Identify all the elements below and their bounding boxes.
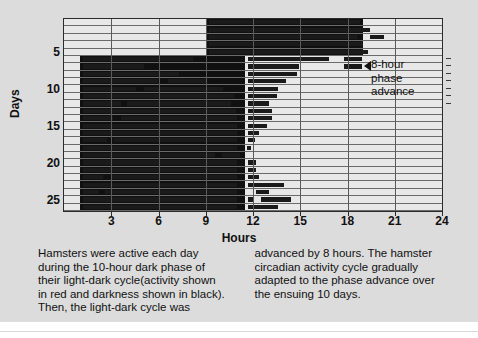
figure-caption: Hamsters were active each day during the…	[38, 247, 448, 315]
activity-bar	[248, 72, 297, 76]
activity-bar	[247, 146, 252, 150]
activity-bar	[209, 50, 368, 54]
activity-bar	[248, 64, 298, 68]
annotation-line-3: advance	[371, 85, 451, 99]
x-tick-mark	[442, 212, 443, 216]
activity-bar	[83, 183, 237, 187]
caption-line: during the 10-hour dark phase of	[38, 261, 236, 275]
phase-advance-annotation: 8-hour phase advance	[371, 58, 451, 99]
activity-bar	[248, 124, 267, 128]
activity-bar	[261, 197, 291, 201]
activity-bar	[209, 20, 360, 24]
x-tick-mark	[111, 212, 112, 216]
activity-bar	[248, 116, 272, 120]
activity-bar	[83, 205, 237, 209]
minor-tick	[446, 80, 451, 81]
y-tick-label: 15	[20, 119, 60, 133]
activity-bar	[83, 131, 237, 135]
x-gridline	[395, 19, 396, 211]
caption-line: adapted to the phase advance over	[254, 274, 448, 288]
y-tick-label: 5	[20, 45, 60, 59]
activity-bar	[83, 146, 237, 150]
y-tick-label: 25	[20, 193, 60, 207]
minor-tick	[446, 88, 451, 89]
activity-bar	[209, 35, 357, 39]
activity-bar	[83, 138, 107, 142]
activity-bar	[105, 190, 237, 194]
x-tick-mark	[348, 212, 349, 216]
x-gridline	[111, 19, 112, 211]
figure-panel: Days 510152025 Hours 8-hour phase advanc…	[0, 0, 478, 322]
caption-column-right: advanced by 8 hours. The hamster circadi…	[254, 247, 448, 315]
x-tick-label: 18	[333, 214, 363, 228]
caption-line: in red and darkness shown in black).	[38, 288, 236, 302]
x-gridline	[348, 19, 349, 211]
activity-bar	[83, 87, 137, 91]
minor-tick	[446, 103, 451, 104]
activity-bar	[83, 101, 121, 105]
y-tick-label: 20	[20, 156, 60, 170]
activity-bar	[83, 57, 193, 61]
activity-bar	[83, 160, 237, 164]
annotation-line-1: 8-hour	[371, 58, 451, 72]
activity-bar	[209, 28, 370, 32]
caption-line: advanced by 8 hours. The hamster	[254, 247, 448, 261]
activity-bar	[209, 42, 363, 46]
x-gridline	[253, 19, 254, 211]
minor-tick	[446, 95, 451, 96]
activity-bar	[127, 101, 231, 105]
x-gridline	[300, 19, 301, 211]
activity-bar	[222, 153, 241, 157]
bottom-rule	[0, 331, 478, 332]
phase-advance-arrow-icon	[364, 61, 371, 71]
x-tick-mark	[300, 212, 301, 216]
caption-line: Hamsters were active each day	[38, 247, 236, 261]
activity-bar	[83, 190, 99, 194]
minor-tick	[446, 58, 451, 59]
x-tick-mark	[159, 212, 160, 216]
activity-bar	[83, 72, 179, 76]
x-tick-label: 21	[380, 214, 410, 228]
x-tick-label: 6	[144, 214, 174, 228]
activity-bar	[83, 64, 144, 68]
x-axis-title: Hours	[0, 231, 478, 245]
minor-tick	[446, 73, 451, 74]
caption-column-left: Hamsters were active each day during the…	[38, 247, 236, 315]
activity-bar	[121, 116, 238, 120]
minor-tick	[446, 65, 451, 66]
activity-bar	[144, 87, 223, 91]
x-gridline	[206, 19, 207, 211]
activity-bar	[248, 109, 272, 113]
activity-bar	[168, 79, 206, 83]
activity-bar	[83, 197, 237, 201]
caption-line: Then, the light-dark cycle was	[38, 301, 236, 315]
activity-bar	[83, 175, 103, 179]
x-tick-label: 12	[238, 214, 268, 228]
activity-bar	[83, 153, 215, 157]
x-tick-label: 3	[96, 214, 126, 228]
activity-bar	[370, 35, 384, 39]
caption-line: the ensuing 10 days.	[254, 288, 448, 302]
activity-bar	[114, 138, 237, 142]
activity-bar	[248, 57, 328, 61]
x-tick-label: 9	[191, 214, 221, 228]
x-gridline	[159, 19, 160, 211]
activity-bar	[83, 168, 237, 172]
x-tick-mark	[206, 212, 207, 216]
actogram-plot	[63, 18, 443, 212]
activity-bar	[83, 124, 237, 128]
x-tick-label: 24	[427, 214, 457, 228]
activity-bar	[83, 116, 113, 120]
x-tick-mark	[253, 212, 254, 216]
x-tick-label: 15	[285, 214, 315, 228]
activity-bar	[83, 79, 159, 83]
activity-bar	[256, 190, 269, 194]
annotation-line-2: phase	[371, 72, 451, 86]
caption-line: their light-dark cycle(activity shown	[38, 274, 236, 288]
y-tick-label: 10	[20, 82, 60, 96]
bottom-strip	[0, 322, 478, 338]
caption-line: circadian activity cycle gradually	[254, 261, 448, 275]
activity-bar	[111, 175, 237, 179]
x-tick-mark	[395, 212, 396, 216]
activity-bar	[248, 101, 268, 105]
